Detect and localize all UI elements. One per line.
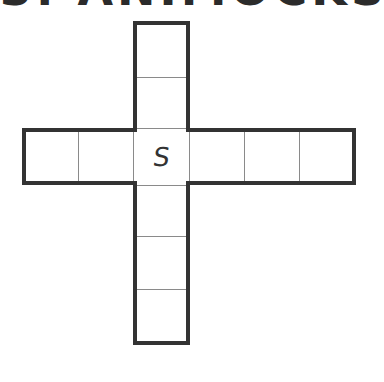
cell-divider bbox=[78, 132, 79, 181]
center-cell-letter: S bbox=[134, 132, 190, 181]
cell-divider bbox=[133, 128, 190, 129]
cell-divider bbox=[137, 289, 186, 290]
corner-stub bbox=[129, 181, 137, 185]
cell-divider bbox=[133, 185, 190, 186]
cell-divider bbox=[244, 132, 245, 181]
cell-divider bbox=[189, 128, 190, 185]
cell-divider bbox=[299, 132, 300, 181]
cell-divider bbox=[137, 236, 186, 237]
corner-stub bbox=[186, 181, 194, 185]
corner-stub bbox=[129, 128, 137, 132]
page-title: 3. ANIMOCKS bbox=[0, 0, 376, 12]
cell-divider bbox=[137, 77, 186, 78]
